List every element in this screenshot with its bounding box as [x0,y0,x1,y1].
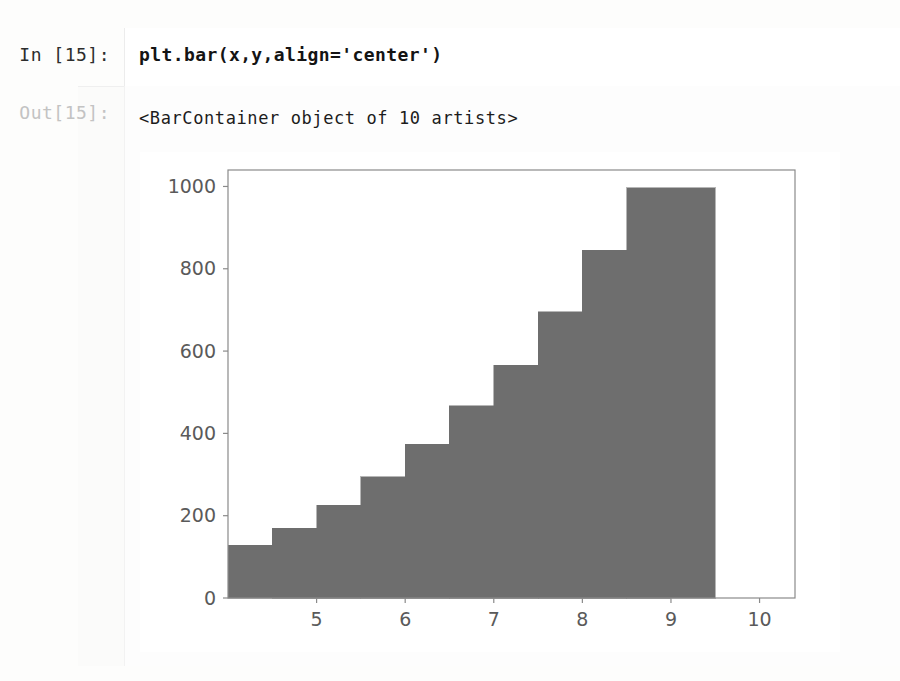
y-tick-label: 1000 [168,175,216,197]
x-tick-label: 5 [311,608,323,630]
x-tick-label: 7 [488,608,500,630]
notebook-page: In [15]: plt.bar(x,y,align='center') Out… [0,0,900,681]
notebook-input-cell[interactable]: In [15]: plt.bar(x,y,align='center') [0,28,900,86]
y-tick-label: 0 [204,587,216,609]
y-tick-label: 600 [180,340,216,362]
output-repr-text: <BarContainer object of 10 artists> [139,108,900,128]
bar [627,188,716,598]
input-code-text[interactable]: plt.bar(x,y,align='center') [139,44,900,65]
output-prompt-label: Out[15]: [0,86,124,123]
y-tick-label: 800 [180,257,216,279]
x-tick-label: 10 [747,608,771,630]
x-tick-label: 8 [576,608,588,630]
matplotlib-figure: 02004006008001000 5678910 [140,152,840,652]
input-prompt-label: In [15]: [0,28,124,65]
bar-chart: 02004006008001000 5678910 [140,152,840,652]
x-tick-label: 6 [399,608,411,630]
y-tick-label: 200 [180,504,216,526]
y-tick-label: 400 [180,422,216,444]
x-tick-label: 9 [665,608,677,630]
input-code-area[interactable]: plt.bar(x,y,align='center') [124,28,900,86]
